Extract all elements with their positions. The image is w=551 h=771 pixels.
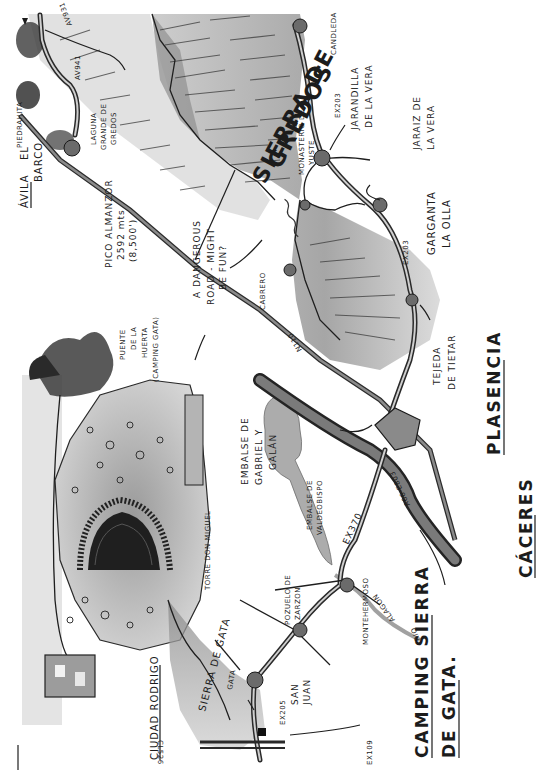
label-barco: BARCO <box>33 142 44 182</box>
label-plasencia: PLASENCIA <box>484 331 504 456</box>
label-juan: JUAN <box>302 679 312 706</box>
label-puente-3: HUERTA <box>141 327 149 358</box>
label-camping-2: DE GATA. <box>439 654 459 758</box>
plasencia-marker <box>375 408 420 450</box>
label-caceres: CÁCERES <box>515 477 536 578</box>
label-pozuelo-2: ZARZON <box>294 587 302 620</box>
label-pozuelo-1: POZUELO DE <box>284 575 292 625</box>
label-pico-3: (8,500') <box>128 219 138 262</box>
label-jaraiz-2: LA VERA <box>426 105 436 150</box>
label-laguna-3: GREDOS <box>110 112 118 145</box>
label-san: SAN <box>290 683 300 705</box>
label-dangerous-2: ROAD - MIGHT <box>206 228 216 305</box>
label-piedrahita: PIEDRAHITA <box>16 102 24 148</box>
label-embalse-gg-1: EMBALSE DE <box>240 417 250 485</box>
label-dangerous-3: BE FUN? <box>218 245 228 290</box>
hand-drawn-map: SIERRA DE GREDOS ÁVILA EL BARCO PIEDRAHI… <box>0 0 551 771</box>
label-candeleda: CANDLEDA <box>330 12 338 55</box>
label-monasterio-2: YUSTE <box>308 140 316 166</box>
label-embalse-v-1: EMBALSE DE <box>306 480 314 530</box>
label-laguna-2: GRANDE DE <box>100 104 108 150</box>
label-ex109: EX109 <box>366 740 374 765</box>
label-garganta-1: GARGANTA <box>426 191 437 255</box>
label-avila: ÁVILA <box>18 174 30 208</box>
label-pico-2: 2592 mts <box>116 209 126 260</box>
label-tejeda-1: TEJEDA <box>432 347 442 386</box>
label-ex205: EX205 <box>279 700 287 725</box>
label-embalse-gg-2: GABRIEL Y <box>254 429 264 485</box>
label-torre: TORRE DON MIGUEL <box>204 511 212 592</box>
label-pico-1: PICO ALMANZOR <box>104 179 114 268</box>
label-jaraiz-1: JARAIZ DE <box>412 96 422 151</box>
label-embalse-v-2: VALDEOBISPO <box>316 480 324 535</box>
label-monasterio-1: MONASTERIO DE <box>298 109 306 175</box>
label-puente-1: PUENTE <box>119 329 127 360</box>
label-montehermoso: MONTEHERMOSO <box>362 577 370 645</box>
label-embalse-gg-3: GALÁN <box>267 434 278 470</box>
label-jarandilla-2: DE LA VERA <box>364 64 374 128</box>
label-av941: AV941 <box>74 55 82 80</box>
label-tejeda-2: DE TIETAR <box>447 334 457 390</box>
label-dangerous-1: A DANGEROUS <box>192 220 202 298</box>
label-puente-4: (CAMPING GATA) <box>152 316 160 382</box>
label-ciudad-rodrigo: CIUDAD RODRIGO <box>149 655 160 760</box>
label-cabrero: CABRERO <box>259 272 267 310</box>
label-camping-1: CAMPING SIERRA <box>412 565 432 758</box>
label-garganta-2: LA OLLA <box>441 199 452 248</box>
label-laguna-1: LAGUNA <box>90 113 98 145</box>
label-ex203-b: EX203 <box>402 240 410 265</box>
label-puente-2: DE LA <box>130 327 138 350</box>
label-jarandilla-1: JARANDILLA <box>350 67 360 131</box>
sierra-de-gredos-shading <box>28 14 440 370</box>
label-ex203-a: EX203 <box>334 93 342 118</box>
